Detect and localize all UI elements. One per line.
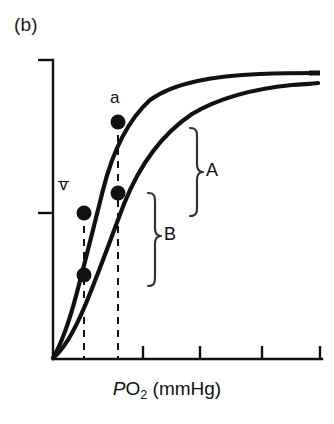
curve-left (53, 73, 318, 358)
data-point-v-lower (77, 268, 92, 283)
data-point-a (111, 115, 126, 130)
data-point-label-a: a (110, 88, 119, 108)
figure-panel-b: (b) (0, 0, 334, 424)
curve-right (53, 83, 318, 358)
data-point-a-lower (111, 186, 126, 201)
v-overbar (58, 181, 69, 182)
data-point-v (77, 206, 92, 221)
data-point-label-v: v (58, 178, 69, 193)
x-axis-title: PO2 (mmHg) (0, 378, 334, 402)
brace-a (190, 128, 203, 216)
brace-label-b: B (164, 224, 176, 245)
brace-label-a: A (206, 160, 218, 181)
x-axis-title-units: (mmHg) (153, 378, 222, 399)
x-axis-ticks (143, 346, 320, 359)
y-axis-ticks (38, 60, 53, 213)
v-glyph: v (58, 176, 69, 193)
x-axis-title-sub2: 2 (140, 388, 147, 402)
brace-b (148, 193, 161, 286)
x-axis-title-o: O (126, 378, 141, 399)
x-axis-title-p: P (113, 378, 126, 399)
oxygen-dissociation-chart (0, 0, 334, 424)
